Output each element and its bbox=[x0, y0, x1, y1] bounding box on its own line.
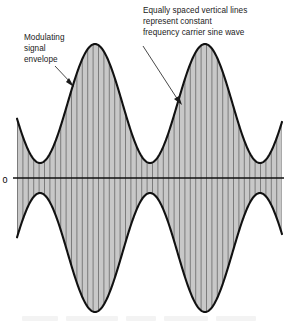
annotation-left-line-1: Modulating bbox=[24, 33, 65, 42]
annotation-left-line-3: envelope bbox=[24, 55, 58, 64]
annotation-right-line-2: represent constant bbox=[143, 17, 212, 26]
annotation-right-line-1: Equally spaced vertical lines bbox=[143, 6, 247, 15]
annotation-right-line-3: frequency carrier sine wave bbox=[143, 28, 245, 37]
zero-axis-label: 0 bbox=[2, 175, 7, 185]
annotation-left-line-2: signal bbox=[24, 44, 46, 53]
annotation-modulating-signal-envelope: Modulating signal envelope bbox=[24, 33, 74, 87]
annotation-right-leader-line bbox=[143, 46, 178, 100]
page-caption-smudge bbox=[22, 316, 256, 321]
am-waveform-figure: 0 Modulating signal envelope Equally spa… bbox=[0, 0, 286, 321]
